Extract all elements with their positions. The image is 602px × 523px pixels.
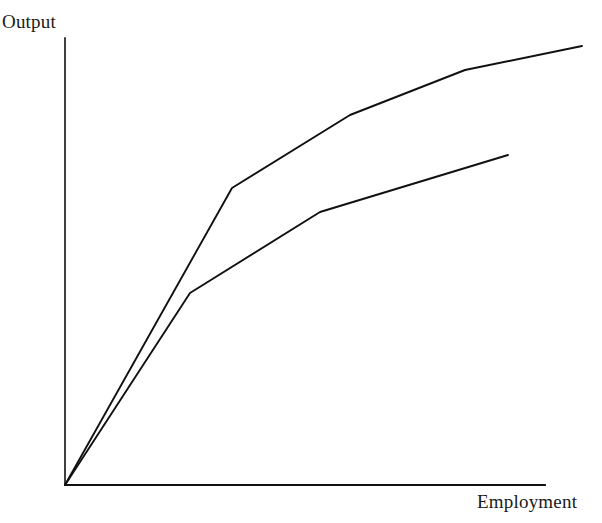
plot-area: [0, 0, 602, 523]
chart-figure: Output Employment: [0, 0, 602, 523]
upper-curve: [65, 46, 582, 485]
x-axis-label: Employment: [477, 492, 577, 511]
lower-curve: [65, 155, 508, 485]
y-axis-label: Output: [2, 12, 56, 31]
